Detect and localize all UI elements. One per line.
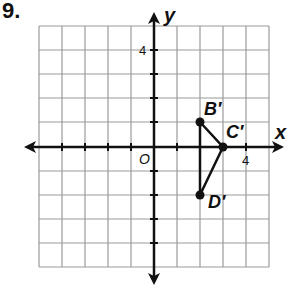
point-label-d-prime: D′ (208, 192, 226, 212)
x-tick-label-4: 4 (242, 153, 249, 168)
y-tick-label-4: 4 (139, 43, 146, 58)
y-axis-label: y (163, 4, 176, 26)
coordinate-plane: y x O 4 4 B′ C′ D′ (0, 0, 294, 289)
point-c-prime (219, 143, 228, 152)
point-label-c-prime: C′ (226, 122, 244, 142)
point-d-prime (196, 191, 205, 200)
point-label-b-prime: B′ (204, 99, 222, 119)
x-axis-label: x (274, 121, 287, 143)
origin-label: O (139, 151, 150, 167)
triangle-figure (200, 122, 223, 195)
